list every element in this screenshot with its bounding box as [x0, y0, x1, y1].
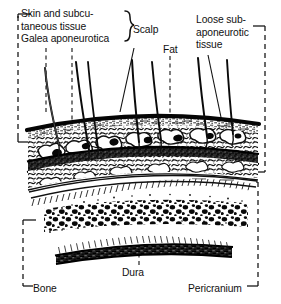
- label-skin-line1: Skin and subcu-: [21, 8, 93, 21]
- label-skin-line2: taneous tissue: [21, 21, 86, 34]
- label-bone: Bone: [33, 283, 57, 296]
- label-pericranium: Pericranium: [188, 283, 242, 296]
- label-fat: Fat: [163, 44, 178, 57]
- label-loose-line2: aponeurotic: [196, 27, 249, 40]
- label-loose-line1: Loose sub-: [196, 14, 246, 27]
- label-loose-line3: tissue: [196, 39, 222, 52]
- scalp-layers-figure: Skin and subcu- taneous tissue Galea apo…: [0, 0, 281, 304]
- label-dura: Dura: [122, 267, 144, 280]
- label-galea: Galea aponeurotica: [21, 33, 109, 46]
- figure-illustration: [0, 0, 281, 304]
- label-scalp: Scalp: [133, 24, 158, 37]
